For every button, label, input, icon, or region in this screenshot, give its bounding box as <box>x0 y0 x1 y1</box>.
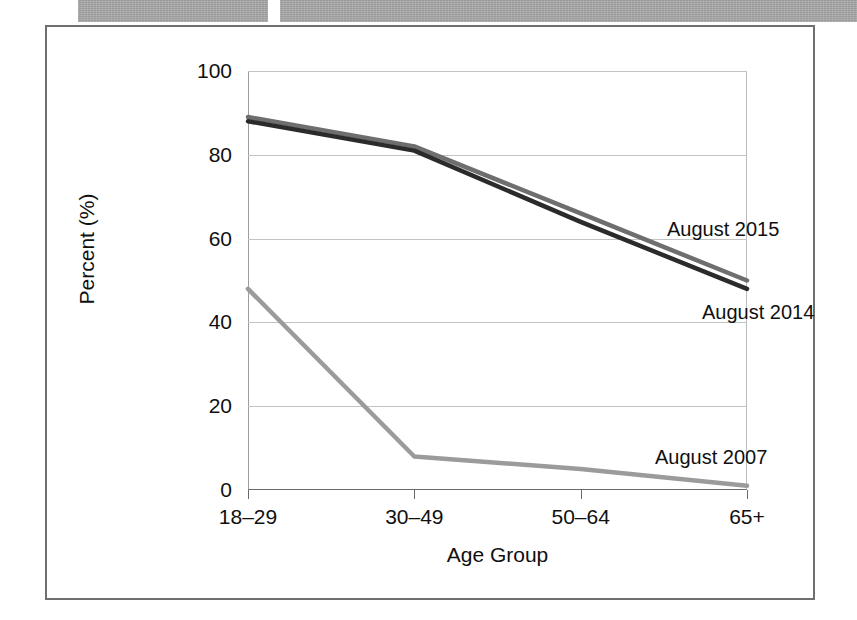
series-label-august-2015: August 2015 <box>667 219 779 239</box>
series-line-august-2014 <box>248 121 747 289</box>
redacted-text-bar-2 <box>280 0 857 22</box>
series-line-august-2015 <box>248 117 747 280</box>
series-label-august-2007: August 2007 <box>655 447 767 467</box>
series-label-august-2014: August 2014 <box>702 302 814 322</box>
redacted-text-bar-1 <box>78 0 268 22</box>
figure-frame: 020406080100 Percent (%) 18–2930–4950–64… <box>45 25 815 600</box>
redacted-header-band <box>0 0 857 22</box>
line-chart: 020406080100 Percent (%) 18–2930–4950–64… <box>47 27 817 602</box>
